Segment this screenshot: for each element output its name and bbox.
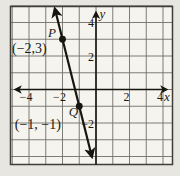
data-point-P: [59, 36, 66, 43]
point-name-label: P: [47, 25, 56, 40]
x-tick-label: 4: [157, 90, 163, 104]
x-axis-label: x: [163, 89, 170, 104]
y-tick-label: 2: [88, 50, 94, 64]
point-name-label: Q: [69, 104, 79, 119]
x-tick-label: −2: [53, 90, 66, 104]
x-tick-label: −4: [20, 90, 33, 104]
point-coord-label: (−1, −1): [15, 117, 61, 133]
y-tick-label: 4: [88, 16, 94, 30]
plot-background: [11, 7, 173, 165]
point-coord-label: (−2,3): [12, 41, 47, 57]
y-axis-label: y: [98, 6, 106, 21]
coordinate-plane-chart: −4−224−224xyP(−2,3)Q(−1, −1): [0, 0, 180, 176]
textbook-figure: e −4−224−224xyP(−2,3)Q(−1, −1): [0, 0, 180, 176]
x-tick-label: 2: [124, 90, 130, 104]
